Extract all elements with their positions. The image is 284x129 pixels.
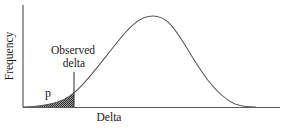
chart-svg: Observed delta p Delta Frequency (0, 0, 284, 129)
p-value-diagram: Observed delta p Delta Frequency (0, 0, 284, 129)
observed-label-line2: delta (63, 57, 85, 69)
distribution-curve (23, 16, 256, 107)
y-axis-label: Frequency (3, 31, 16, 80)
x-axis-label: Delta (97, 111, 122, 123)
p-label: p (45, 86, 51, 100)
observed-label-line1: Observed (51, 44, 95, 56)
